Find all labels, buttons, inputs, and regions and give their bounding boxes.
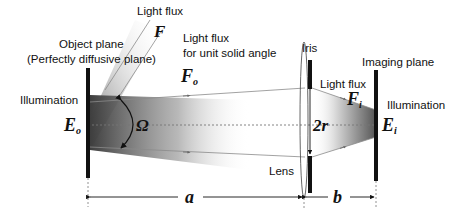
object-plane-sublabel: (Perfectly diffusive plane) bbox=[27, 53, 156, 65]
unit-solid-angle-label-1: Light flux bbox=[183, 32, 229, 44]
fi-symbol: Fi bbox=[346, 89, 362, 110]
eo-symbol: Eo bbox=[63, 115, 81, 136]
light-flux-image-label: Light flux bbox=[320, 78, 366, 90]
light-flux-label: Light flux bbox=[137, 5, 183, 17]
illumination-left-label: Illumination bbox=[20, 94, 78, 106]
optics-diagram: Light flux F Object plane (Perfectly dif… bbox=[0, 0, 472, 223]
ei-symbol: Ei bbox=[381, 115, 397, 136]
omega-symbol: Ω bbox=[136, 116, 149, 135]
illumination-right-label: Illumination bbox=[387, 99, 445, 111]
object-plane-label: Object plane bbox=[59, 38, 124, 50]
flux-f-symbol: F bbox=[153, 22, 166, 41]
iris-label: Iris bbox=[302, 42, 318, 54]
object-cone-beam bbox=[90, 95, 250, 170]
object-plane bbox=[86, 68, 90, 178]
distance-a-label: a bbox=[185, 187, 194, 207]
lens bbox=[300, 42, 308, 198]
aperture-2r-label: 2r bbox=[312, 116, 329, 135]
distance-b-label: b bbox=[333, 187, 342, 207]
unit-solid-angle-label-2: for unit solid angle bbox=[183, 47, 276, 59]
lens-label: Lens bbox=[269, 165, 294, 177]
iris bbox=[308, 60, 312, 193]
fo-symbol: Fo bbox=[180, 66, 198, 87]
imaging-plane bbox=[374, 70, 378, 181]
imaging-plane-label: Imaging plane bbox=[362, 56, 434, 68]
